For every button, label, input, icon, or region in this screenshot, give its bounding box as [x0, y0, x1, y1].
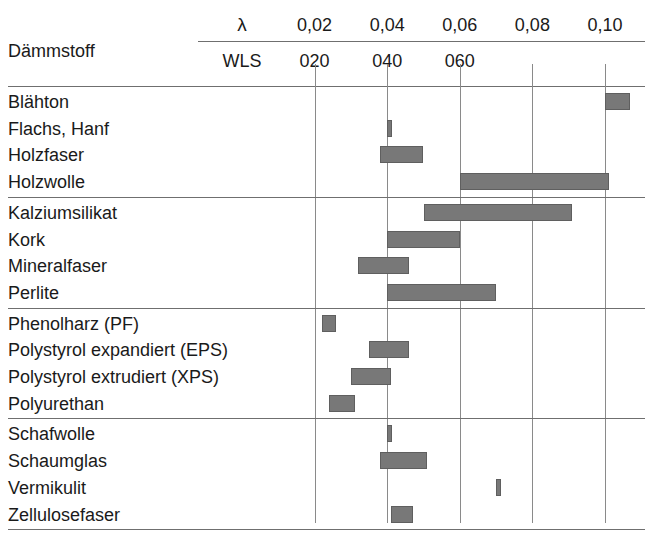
bar-perlite [387, 284, 496, 301]
axis-wls-label: WLS [212, 48, 272, 74]
row-label-schafwolle: Schafwolle [8, 421, 95, 447]
bottom-rule [8, 529, 645, 530]
bar-holzwolle [460, 173, 609, 190]
bar-zellulosefaser [391, 506, 413, 523]
row-label-kork: Kork [8, 227, 45, 253]
row-label-perlite: Perlite [8, 280, 59, 306]
bar-flachs-hanf [387, 120, 392, 137]
axis-lambda-tick-1: 0,04 [355, 12, 419, 38]
axis-lambda-tick-0: 0,02 [283, 12, 347, 38]
row-label-holzwolle: Holzwolle [8, 169, 85, 195]
row-label-holzfaser: Holzfaser [8, 142, 84, 168]
row-label-zellulosefaser: Zellulosefaser [8, 502, 120, 528]
group-separator-1 [8, 197, 645, 198]
axis-lambda-row: λ0,020,040,060,080,10 [0, 12, 652, 38]
axis-lambda-tick-3: 0,08 [500, 12, 564, 38]
bar-polyurethan [329, 395, 354, 412]
group-separator-3 [8, 418, 645, 419]
axis-lambda-symbol: λ [212, 12, 272, 38]
row-label-polyurethan: Polyurethan [8, 391, 104, 417]
row-label-polystyrol-expandiert-eps: Polystyrol expandiert (EPS) [8, 337, 228, 363]
bar-schafwolle [387, 425, 392, 442]
axis-lambda-tick-4: 0,10 [573, 12, 637, 38]
group-separator-2 [8, 308, 645, 309]
gridline-3 [532, 64, 533, 523]
bar-polystyrol-extrudiert-xps [351, 368, 391, 385]
row-label-mineralfaser: Mineralfaser [8, 253, 107, 279]
bar-kalziumsilikat [424, 204, 573, 221]
bar-kork [387, 231, 460, 248]
bar-schaumglas [380, 452, 427, 469]
axis-wls-row: WLS020040060 [0, 48, 652, 74]
row-label-vermikulit: Vermikulit [8, 475, 86, 501]
bar-phenolharz-pf [322, 315, 337, 332]
bar-vermikulit [496, 479, 501, 496]
row-label-flachs-hanf: Flachs, Hanf [8, 116, 109, 142]
axis-lambda-tick-2: 0,06 [428, 12, 492, 38]
header-rule-lambda [198, 41, 645, 42]
insulation-lambda-chart: λ0,020,040,060,080,10WLS020040060Dämmsto… [0, 0, 652, 540]
row-label-bl-hton: Blähton [8, 89, 69, 115]
row-label-phenolharz-pf: Phenolharz (PF) [8, 311, 139, 337]
page-title: Dämmstoff [8, 38, 95, 64]
gridline-4 [605, 64, 606, 523]
bar-mineralfaser [358, 257, 409, 274]
bar-holzfaser [380, 146, 424, 163]
row-label-polystyrol-extrudiert-xps: Polystyrol extrudiert (XPS) [8, 364, 219, 390]
bar-bl-hton [605, 93, 630, 110]
header-rule-bottom [8, 86, 645, 87]
row-label-kalziumsilikat: Kalziumsilikat [8, 200, 117, 226]
row-label-schaumglas: Schaumglas [8, 448, 107, 474]
bar-polystyrol-expandiert-eps [369, 341, 409, 358]
gridline-0 [315, 64, 316, 523]
